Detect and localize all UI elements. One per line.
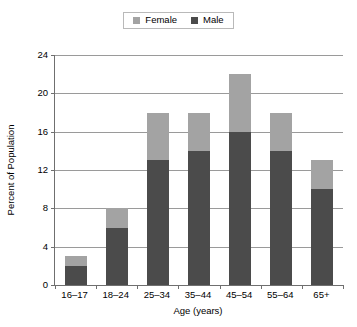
y-axis-tick-label: 8	[43, 203, 48, 213]
bar-stack	[270, 113, 292, 285]
bar-segment-male	[229, 132, 251, 285]
bar-segment-female	[106, 208, 128, 227]
x-axis-tick-label: 18–24	[95, 289, 136, 300]
bar-slot	[55, 55, 96, 285]
bar-stack	[147, 113, 169, 285]
x-axis-tick-label: 35–44	[177, 289, 218, 300]
bar-segment-female	[188, 113, 210, 151]
bar-slot	[137, 55, 178, 285]
y-axis-tick-label: 24	[37, 50, 48, 60]
bar-stack	[188, 113, 210, 285]
legend-entry-male: Male	[191, 15, 224, 25]
bar-segment-female	[229, 74, 251, 132]
legend-label-male: Male	[203, 15, 224, 25]
legend-box: Female Male	[123, 12, 233, 29]
bar-slot	[220, 55, 261, 285]
plot-area: 04812162024	[54, 55, 343, 286]
x-axis-tick	[343, 285, 344, 289]
bar-segment-male	[147, 160, 169, 285]
legend-swatch-male-icon	[191, 17, 198, 24]
x-axis-tick-label: 45–54	[219, 289, 260, 300]
legend-entry-female: Female	[133, 15, 177, 25]
bar-segment-male	[188, 151, 210, 285]
x-axis-title: Age (years)	[54, 305, 342, 316]
bar-slot	[178, 55, 219, 285]
y-axis-tick-label: 20	[37, 88, 48, 98]
bar-segment-male	[270, 151, 292, 285]
bar-segment-male	[65, 266, 87, 285]
bar-slot	[261, 55, 302, 285]
y-axis-tick-label: 16	[37, 127, 48, 137]
bar-stack	[229, 74, 251, 285]
bar-slot	[302, 55, 343, 285]
bar-group	[55, 55, 343, 285]
bar-segment-female	[147, 113, 169, 161]
y-axis-title: Percent of Population	[5, 125, 16, 216]
bar-stack	[106, 208, 128, 285]
bar-stack	[65, 256, 87, 285]
bar-segment-female	[311, 160, 333, 189]
bar-segment-male	[106, 228, 128, 286]
bar-slot	[96, 55, 137, 285]
legend-label-female: Female	[145, 15, 177, 25]
chart-legend: Female Male	[0, 12, 357, 29]
x-axis-tick-label: 55–64	[260, 289, 301, 300]
bar-chart: Female Male Percent of Population 048121…	[0, 0, 357, 327]
bar-segment-female	[270, 113, 292, 151]
x-axis-tick-label: 25–34	[136, 289, 177, 300]
legend-swatch-female-icon	[133, 17, 140, 24]
y-axis-tick-label: 12	[37, 165, 48, 175]
bar-segment-female	[65, 256, 87, 266]
x-axis-tick-label: 16–17	[54, 289, 95, 300]
x-axis-labels: 16–1718–2425–3435–4445–5455–6465+	[54, 289, 342, 300]
y-axis-tick-label: 4	[43, 242, 48, 252]
bar-stack	[311, 160, 333, 285]
bar-segment-male	[311, 189, 333, 285]
y-axis-tick-label: 0	[43, 280, 48, 290]
x-axis-tick-label: 65+	[301, 289, 342, 300]
